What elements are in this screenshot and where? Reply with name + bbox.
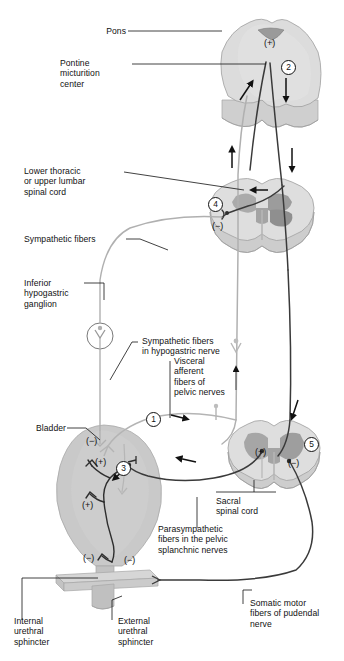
label-lower-thoracic-cord: Lower thoracic or upper lumbar spinal co… [24,166,128,197]
label-somatic-motor-fibers: Somatic motor fibers of pudendal nerve [250,598,342,629]
step-marker-5: 5 [304,437,319,452]
label-parasympathetic-fibers: Parasympathetic fibers in the pelvic spl… [158,524,264,555]
label-external-urethral-sphincter: External urethral sphincter [118,616,184,647]
arrow-afferent-to-cord [171,415,187,419]
sign-external-sphincter-minus: (−) [124,555,135,565]
step-marker-1: 1 [146,412,161,427]
leader-lower-thoracic [124,172,244,190]
arrow-para-to-bladder [178,458,196,462]
step-marker-3: 3 [116,461,131,476]
label-internal-urethral-sphincter: Internal urethral sphincter [14,616,74,647]
label-visceral-afferent-fibers: Visceral afferent fibers of pelvic nerve… [174,356,246,398]
afferent-pelvic-stalk [214,404,218,420]
label-sympathetic-fibers: Sympathetic fibers [24,234,128,244]
step-marker-4: 4 [208,197,223,212]
sign-bladder-neck-minus: (−) [83,553,94,563]
label-pons: Pons [60,26,126,36]
sign-thoracic-minus: (−) [212,221,223,231]
direction-arrows [114,78,298,479]
leader-symp-hypogastric [110,342,138,380]
label-bladder: Bladder [8,423,66,433]
sign-pons-plus: (+) [264,38,275,48]
sign-bladder-dome-minus: (−) [86,436,97,446]
sign-sacral-minus: (−) [288,458,299,468]
pelvic-floor-slab [56,570,158,609]
label-sympathetic-hypogastric-nerve: Sympathetic fibers in hypogastric nerve [142,336,246,357]
figure-canvas: Pons Pontine micturition center Lower th… [0,0,344,661]
bladder-organ [56,425,161,591]
label-pontine-micturition-center: Pontine micturition center [60,58,132,89]
label-sacral-spinal-cord: Sacral spinal cord [216,496,278,517]
leader-ihg [84,283,104,300]
thoracic-synapse-dot [225,211,229,215]
sign-sacral-plus: (+) [255,447,266,457]
leader-sympathetic-fibers [126,239,168,250]
sacral-spinal-cord [228,420,320,488]
inferior-hypogastric-ganglion [87,323,113,349]
label-inferior-hypogastric-ganglion: Inferior hypogastric ganglion [24,278,86,309]
sympathetic-pathway [100,216,222,430]
arrow-sacral-down [292,400,298,418]
anatomy-illustration [0,0,344,661]
sign-bladder-lower-plus: (+) [82,500,93,510]
step-marker-2: 2 [281,60,296,75]
sign-bladder-upper-plus: (+) [95,457,106,467]
